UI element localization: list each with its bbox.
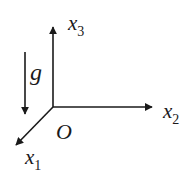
axis-x3-label: x3: [67, 11, 84, 39]
axis-x2: x2: [53, 99, 179, 127]
origin-label: O: [56, 119, 72, 144]
coordinate-diagram: x3 x2 x1 O g: [0, 0, 188, 181]
axis-x1: x1: [16, 107, 53, 173]
axis-x1-label: x1: [24, 145, 41, 173]
gravity-label: g: [30, 59, 42, 85]
axis-x3: x3: [53, 11, 84, 107]
gravity-vector: g: [25, 52, 42, 114]
axis-x1-arrow-icon: [16, 107, 53, 145]
axis-x2-label: x2: [162, 99, 179, 127]
